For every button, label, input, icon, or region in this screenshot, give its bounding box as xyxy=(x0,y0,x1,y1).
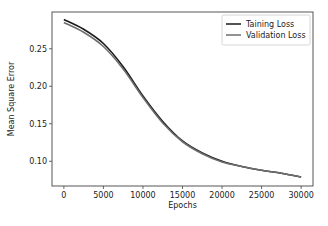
x-tick-label: 15000 xyxy=(170,191,195,200)
y-tick-label: 0.20 xyxy=(29,82,47,91)
y-tick-label: 0.15 xyxy=(29,120,47,129)
x-tick-label: 0 xyxy=(61,191,66,200)
y-tick-label: 0.25 xyxy=(29,45,47,54)
legend-label-training: Taining Loss xyxy=(245,20,294,29)
series-line-validation xyxy=(64,23,301,178)
loss-chart: 050001000015000200002500030000 0.100.150… xyxy=(0,0,328,226)
y-axis-ticks: 0.100.150.200.25 xyxy=(29,45,52,167)
legend-label-validation: Validation Loss xyxy=(246,31,306,40)
x-tick-label: 30000 xyxy=(288,191,313,200)
x-tick-label: 20000 xyxy=(209,191,234,200)
x-axis-ticks: 050001000015000200002500030000 xyxy=(61,186,314,200)
x-tick-label: 25000 xyxy=(249,191,274,200)
legend: Taining Loss Validation Loss xyxy=(222,15,310,45)
x-tick-label: 10000 xyxy=(130,191,155,200)
x-tick-label: 5000 xyxy=(93,191,113,200)
x-axis-label: Epochs xyxy=(168,201,197,210)
y-tick-label: 0.10 xyxy=(29,157,47,166)
y-axis-label: Mean Square Error xyxy=(7,61,16,136)
